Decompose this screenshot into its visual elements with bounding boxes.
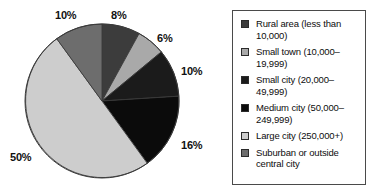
legend-item-label: Small town (10,000–19,999): [256, 46, 359, 69]
pie-chart-figure: 8%6%10%16%50%10% Rural area (less than 1…: [0, 0, 370, 196]
legend-swatch-icon: [241, 20, 249, 28]
legend-item-medium-city[interactable]: Medium city (50,000–249,999): [241, 102, 359, 125]
legend-swatch-icon: [241, 104, 249, 112]
pie-label-rural-area: 8%: [111, 10, 127, 21]
legend-item-label: Large city (250,000+): [256, 130, 343, 142]
pie-label-large-city: 50%: [10, 152, 31, 163]
legend-swatch-icon: [241, 132, 249, 140]
legend-item-small-city[interactable]: Small city (20,000–49,999): [241, 74, 359, 97]
legend-item-label: Small city (20,000–49,999): [256, 74, 359, 97]
pie-plot-area: 8%6%10%16%50%10%: [0, 0, 228, 196]
pie-svg: [0, 0, 228, 196]
legend-item-large-city[interactable]: Large city (250,000+): [241, 130, 359, 142]
pie-label-small-town: 6%: [157, 33, 173, 44]
legend-swatch-icon: [241, 48, 249, 56]
pie-label-small-city: 10%: [181, 66, 202, 77]
legend: Rural area (less than 10,000)Small town …: [232, 10, 366, 185]
pie-slice-group: [25, 24, 179, 178]
legend-swatch-icon: [241, 76, 249, 84]
legend-rows: Rural area (less than 10,000)Small town …: [241, 18, 359, 170]
legend-item-small-town[interactable]: Small town (10,000–19,999): [241, 46, 359, 69]
legend-item-label: Rural area (less than 10,000): [256, 18, 359, 41]
pie-label-suburban: 10%: [55, 10, 76, 21]
legend-item-label: Suburban or outside central city: [256, 147, 359, 170]
pie-label-medium-city: 16%: [181, 140, 202, 151]
legend-item-suburban[interactable]: Suburban or outside central city: [241, 147, 359, 170]
legend-item-rural-area[interactable]: Rural area (less than 10,000): [241, 18, 359, 41]
legend-item-label: Medium city (50,000–249,999): [256, 102, 359, 125]
legend-swatch-icon: [241, 149, 249, 157]
